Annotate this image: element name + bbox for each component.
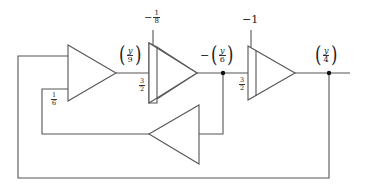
label-amp3-output: ( y 4 ) xyxy=(314,44,338,66)
label-amp2-output-den: 6 xyxy=(219,56,226,64)
label-amp1-output: ( y 9 ) xyxy=(118,44,142,66)
node-amp2-output xyxy=(221,71,225,75)
label-amp2-input-gain: 3 2 xyxy=(139,78,145,92)
node-amp3-output xyxy=(327,71,331,75)
label-amp3-input-gain: 3 2 xyxy=(239,77,245,91)
label-amp3-ic: −1 xyxy=(242,14,258,25)
integrator-2-body xyxy=(149,43,197,103)
feedback-inverter-amplifier xyxy=(149,105,199,164)
label-amp1-feedback-gain: 1 6 xyxy=(51,92,57,106)
label-amp1-output-den: 9 xyxy=(127,56,134,64)
feedback-amp-input-wire xyxy=(199,73,223,134)
label-amp3-output-den: 4 xyxy=(323,56,330,64)
inner-feedback-wire xyxy=(42,89,149,134)
summer-amplifier-1 xyxy=(68,45,116,101)
integrator-amplifier-3 xyxy=(248,46,295,100)
label-amp2-output: − ( y 6 ) xyxy=(200,44,235,66)
label-amp2-ic: − 1 8 xyxy=(144,10,160,25)
